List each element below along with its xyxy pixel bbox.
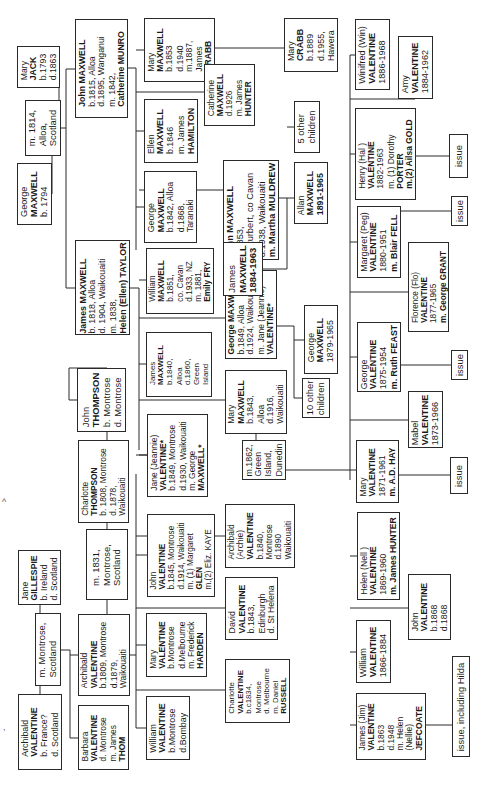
person-text-line: JACK — [29, 54, 39, 80]
person-box-five-other-children: 5 otherchildren — [294, 101, 320, 153]
person-text-line: issue — [454, 354, 465, 376]
person-text-line: VALENTINE — [368, 447, 378, 496]
person-text-line: CRABB — [296, 29, 306, 61]
person-text: WilliamVALENTINEb.Montrosed.Bombay — [148, 703, 188, 753]
person-text-line: James (Jim) — [358, 703, 367, 750]
person-text-line: THOMPSON — [91, 373, 102, 427]
person-text-line: m. 1814, — [27, 110, 38, 146]
person-text-line: b.1851, — [166, 260, 175, 301]
person-text-line: m.1887, — [184, 28, 194, 71]
person-box-mary-jack: MaryJACKb.1793d.1863 — [17, 46, 60, 88]
person-text-line: Margaret (Peg) — [359, 212, 369, 272]
person-text-line: Mary — [148, 621, 158, 668]
person-text-line: VALENTINE — [236, 668, 245, 714]
person-text: JamesMAXWELLb.1840,Alload.1860,GreenIsla… — [148, 344, 210, 384]
person-box-john-thompson: JohnTHOMPSONb. Montrosed. Montrose — [77, 368, 126, 432]
person-text-line: d.1860, — [183, 344, 192, 384]
person-text-line: m.(2) Ailsa GOLD — [405, 119, 415, 188]
person-text-line: b.1846 — [166, 108, 176, 154]
person-text: JohnVALENTINEb.1845, Montrosed.1914, Wai… — [149, 522, 213, 589]
person-text-line: Helen (Nell ) — [359, 517, 369, 595]
person-text-line: VALENTINE — [420, 394, 430, 445]
person-box-mary-maxwell-1843: MaryMAXWELLb.1843,Alload.1916,Waikouaiti — [225, 370, 287, 434]
person-text-line: VALENTINE — [419, 251, 428, 323]
person-text: issue, including Hilda — [456, 662, 467, 750]
person-text: issue — [454, 200, 465, 222]
person-text-line: d. Scotland — [50, 707, 60, 757]
person-text-line: d. 1878, — [108, 448, 117, 515]
person-text-line: m. Frederick — [186, 621, 196, 668]
person-text-line: David — [227, 584, 237, 633]
person-text-line: Edinburgh — [256, 584, 266, 633]
person-text-line: George — [306, 317, 316, 361]
person-text-line: Jane — [20, 555, 30, 600]
person-text: Archibald(Archie)VALENTINEb.1840,Montros… — [227, 512, 293, 559]
person-box-helen-valentine: Helen (Nell )VALENTINE1869-1960m. James … — [357, 512, 400, 600]
person-text-line: children — [307, 111, 318, 144]
person-text-line: (Archie) — [236, 512, 245, 559]
person-text-line: b. Montrose — [102, 373, 113, 427]
person-text-line: George — [146, 182, 156, 232]
person-box-florence-valentine: Florence (Flo)VALENTINE1877-1965m. Georg… — [408, 242, 449, 332]
person-text-line: b. 1818, Alloa — [88, 242, 98, 333]
person-text-line: Mabel — [410, 394, 420, 445]
person-text-line: b.Montrose — [167, 621, 177, 668]
person-text-line: d.1895, Wanganui — [97, 31, 107, 107]
stray-mark: , — [3, 722, 6, 732]
person-box-charlotte-valentine: CharlotteVALENTINEb.c1834,Montrosed. Mel… — [225, 659, 290, 723]
person-text-line: 1882-1963 — [376, 119, 386, 188]
person-text-line: MAXWELL — [29, 171, 39, 217]
person-box-henry-valentine: Henry (Hal )VALENTINE1882-1963m. (1) Dor… — [355, 108, 416, 200]
person-box-issue-henry: issue — [449, 134, 468, 178]
person-text: issue — [454, 354, 465, 376]
person-text-line: MAXWELL — [157, 260, 166, 301]
person-text-line: d.1948 — [386, 703, 395, 750]
person-text-line: Mary — [286, 29, 296, 61]
person-box-mabel-valentine: MabelVALENTINE1873-1966 — [408, 391, 443, 448]
person-box-james-valentine-1863: James (Jim)VALENTINEb.1863d.1948m. Helen… — [356, 693, 426, 760]
person-text: CharlotteTHOMPSONb. 1808, Montrosed. 187… — [80, 448, 127, 515]
person-text-line: 1886-1968 — [378, 26, 388, 83]
person-text-line: (Nellie) — [405, 703, 414, 750]
person-box-john-valentine-1868: JohnVALENTINEb.1868d.1868 — [408, 574, 451, 640]
person-text-line: b. 1794 — [40, 171, 50, 217]
person-text-line: 1879-1965 — [326, 317, 336, 361]
person-text-line: VALENTINE* — [265, 275, 275, 354]
person-box-john-valentine-1845: JohnVALENTINEb.1845, Montrosed.1914, Wai… — [147, 514, 215, 597]
connector-line — [61, 650, 78, 738]
person-text-line: Mary — [19, 54, 29, 80]
person-text-line: Florence (Flo) — [410, 251, 419, 323]
person-box-ellen-maxwell: EllenMAXWELLb.1846m. JamesHAMILTON — [144, 99, 198, 163]
person-box-george-maxwell-1794: GeorgeMAXWELLb. 1794 — [17, 163, 52, 225]
person-box-mary-valentine-1871: MaryVALENTINE1871-1961m. A.D. HAY — [356, 440, 399, 503]
person-text-line: Green — [192, 344, 201, 384]
person-text-line: d. St Helena — [266, 584, 276, 633]
person-text: JohnVALENTINEb.1868d.1868 — [410, 583, 449, 631]
person-text-line: d.1879, — [109, 622, 119, 689]
person-text-line: d.1955, — [316, 29, 326, 61]
person-text-line: m. James — [234, 74, 243, 116]
person-text-line: m. James HUNTER — [388, 517, 398, 595]
person-box-m-1814-alloa: m. 1814,Alloa,Scotland — [25, 100, 61, 156]
person-box-ten-other-children: 10 otherchildren — [302, 378, 330, 418]
person-text-line: m. George — [187, 421, 197, 491]
person-text-line: THOM — [118, 714, 127, 761]
person-box-mary-crabb: MaryCRABBb.1889d.1955,Hawera — [284, 18, 338, 72]
person-box-mary-valentine-montrose: MaryVALENTINEb.Montrosed.Melbournem. Fre… — [146, 613, 207, 677]
person-box-george-maxwell-1879: GeorgeMAXWELL1879-1965 — [304, 305, 338, 374]
person-text-line: 10 other — [305, 381, 316, 416]
person-text-line: m. Helen — [396, 703, 405, 750]
person-text-line: b. Ireland — [40, 555, 50, 600]
person-box-david-valentine: DavidVALENTINEb.1843,Edinburghd. St Hele… — [225, 577, 278, 640]
person-text-line: m. Daniel — [271, 668, 280, 714]
person-text-line: Jane (Jeannie) — [149, 421, 159, 491]
person-text-line: Green — [254, 444, 264, 477]
person-text-line: William — [148, 260, 157, 301]
person-text-line: b.1793 — [39, 54, 49, 80]
person-text: ArchibaldVALENTINEb. France?d. Scotland — [20, 707, 60, 757]
person-text-line: Archibald — [80, 622, 90, 689]
person-text-line: m. A.D. HAY — [387, 447, 397, 496]
person-text-line: GLEN — [195, 522, 204, 589]
person-text-line: issue — [453, 145, 464, 167]
person-text-line: Taranaki — [185, 182, 195, 232]
